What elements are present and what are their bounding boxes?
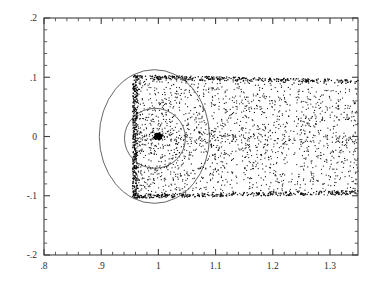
data-point: [258, 168, 259, 169]
data-point: [161, 102, 162, 103]
data-point: [222, 161, 223, 162]
x-tick-label: 1: [156, 261, 161, 271]
data-point: [353, 151, 354, 152]
data-point: [139, 141, 140, 142]
data-point: [211, 102, 212, 103]
data-point: [252, 184, 253, 185]
data-point: [327, 107, 328, 108]
data-point: [196, 143, 197, 144]
data-point: [140, 138, 141, 139]
data-point: [354, 120, 355, 121]
data-point: [205, 129, 206, 130]
data-point: [273, 146, 274, 147]
data-point: [286, 122, 287, 123]
data-point: [343, 136, 344, 137]
data-point: [142, 178, 143, 179]
data-point: [226, 76, 227, 77]
data-point: [294, 194, 295, 195]
data-point: [212, 77, 213, 78]
data-point: [132, 185, 134, 187]
data-point: [339, 119, 340, 120]
data-point: [270, 164, 271, 165]
data-point: [262, 95, 263, 96]
data-point: [188, 129, 189, 130]
data-point: [338, 156, 339, 157]
data-point: [141, 188, 142, 189]
data-point: [134, 128, 136, 130]
data-point: [176, 78, 177, 79]
data-point: [262, 129, 263, 130]
data-point: [219, 79, 220, 80]
data-point: [188, 158, 189, 159]
data-point: [265, 152, 266, 153]
data-point: [275, 152, 276, 153]
data-point: [264, 157, 265, 158]
data-point: [178, 167, 179, 168]
data-point: [311, 188, 312, 189]
data-point: [178, 187, 179, 188]
data-point: [281, 87, 282, 88]
data-point: [215, 159, 216, 160]
data-point: [197, 91, 198, 92]
data-point: [310, 93, 311, 94]
data-point: [353, 125, 354, 126]
data-point: [211, 105, 212, 106]
data-point: [137, 106, 138, 107]
data-point: [140, 118, 141, 119]
data-point: [325, 80, 326, 81]
data-point: [327, 135, 328, 136]
data-point: [137, 124, 138, 125]
data-point: [336, 91, 337, 92]
data-point: [208, 192, 209, 193]
data-point: [255, 160, 256, 161]
data-point: [287, 104, 288, 105]
y-tick-label: -.1: [27, 191, 38, 201]
data-point: [190, 139, 191, 140]
data-point: [330, 129, 331, 130]
data-point: [250, 150, 251, 151]
data-point: [153, 132, 154, 133]
data-point: [235, 135, 236, 136]
data-point: [135, 119, 137, 121]
data-point: [285, 130, 286, 131]
data-point: [170, 101, 171, 102]
data-point: [347, 80, 348, 81]
data-point: [313, 177, 314, 178]
data-point: [202, 76, 203, 77]
data-point: [175, 127, 176, 128]
data-point: [194, 196, 195, 197]
data-point: [307, 96, 308, 97]
data-point: [350, 161, 351, 162]
data-point: [324, 194, 325, 195]
data-point: [181, 165, 182, 166]
data-point: [221, 138, 222, 139]
data-point: [154, 90, 155, 91]
data-point: [144, 172, 145, 173]
data-point: [259, 128, 260, 129]
data-point: [323, 94, 324, 95]
data-point: [233, 77, 234, 78]
data-point: [239, 136, 240, 137]
data-point: [275, 171, 276, 172]
data-point: [290, 94, 291, 95]
data-point: [134, 103, 135, 104]
data-point: [132, 147, 134, 149]
data-point: [279, 98, 280, 99]
data-point: [314, 126, 315, 127]
data-point: [188, 123, 189, 124]
data-point: [219, 102, 220, 103]
data-point: [326, 136, 327, 137]
data-point: [157, 76, 158, 77]
data-point: [316, 148, 317, 149]
data-point: [146, 140, 147, 141]
data-point: [231, 179, 232, 180]
data-point: [176, 139, 177, 140]
data-point: [207, 160, 208, 161]
data-point: [202, 193, 203, 194]
data-point: [278, 97, 279, 98]
data-point: [152, 128, 153, 129]
data-point: [222, 195, 223, 196]
data-point: [176, 154, 177, 155]
data-point: [146, 117, 147, 118]
data-point: [181, 99, 182, 100]
